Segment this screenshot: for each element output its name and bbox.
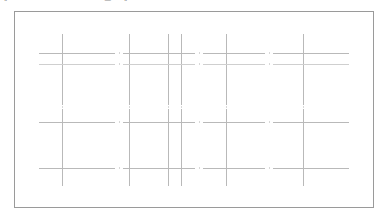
- toolbar-fragment-5[interactable]: ‖: [124, 0, 127, 4]
- horizontal-rule: [123, 53, 195, 54]
- horizontal-rule: [39, 122, 115, 123]
- toolbar-fragment-2[interactable]: ⋯: [62, 0, 70, 4]
- tick-mark: [199, 167, 200, 169]
- toolbar-fragment-3[interactable]: ∙: [84, 0, 86, 4]
- horizontal-rule: [203, 64, 265, 65]
- tick-mark: [62, 106, 63, 108]
- horizontal-rule: [273, 53, 349, 54]
- toolbar-fragment-0[interactable]: ‖: [4, 0, 7, 4]
- vertical-rule: [181, 109, 182, 186]
- tick-mark: [129, 106, 130, 108]
- horizontal-rule: [39, 168, 115, 169]
- horizontal-rule: [39, 64, 115, 65]
- vertical-rule: [226, 109, 227, 186]
- line-drawing-canvas[interactable]: [14, 11, 374, 208]
- vertical-rule: [62, 109, 63, 186]
- tick-mark: [269, 167, 270, 169]
- horizontal-rule: [39, 53, 115, 54]
- tick-mark: [119, 167, 120, 169]
- toolbar-fragment-1[interactable]: ══: [28, 0, 39, 4]
- vertical-rule: [129, 109, 130, 186]
- horizontal-rule: [273, 64, 349, 65]
- tick-mark: [226, 106, 227, 108]
- tick-mark: [199, 52, 200, 54]
- vertical-rule: [129, 34, 130, 105]
- horizontal-rule: [123, 64, 195, 65]
- tick-mark: [119, 121, 120, 123]
- tick-mark: [119, 52, 120, 54]
- tick-mark: [269, 121, 270, 123]
- vertical-rule: [226, 34, 227, 105]
- toolbar-strip: ‖══⋯∙▭‖: [0, 0, 385, 7]
- tick-mark: [303, 106, 304, 108]
- vertical-rule: [168, 34, 169, 105]
- tick-mark: [168, 106, 169, 108]
- tick-mark: [269, 52, 270, 54]
- vertical-rule: [303, 109, 304, 186]
- vertical-rule: [168, 109, 169, 186]
- vertical-rule: [181, 34, 182, 105]
- toolbar-fragment-4[interactable]: ▭: [104, 0, 112, 4]
- horizontal-rule: [203, 53, 265, 54]
- horizontal-rule: [123, 168, 195, 169]
- vertical-rule: [303, 34, 304, 105]
- horizontal-rule: [203, 168, 265, 169]
- tick-mark: [199, 63, 200, 65]
- horizontal-rule: [273, 122, 349, 123]
- tick-mark: [119, 63, 120, 65]
- horizontal-rule: [123, 122, 195, 123]
- horizontal-rule: [203, 122, 265, 123]
- tick-mark: [199, 121, 200, 123]
- tick-mark: [269, 63, 270, 65]
- tick-mark: [181, 106, 182, 108]
- horizontal-rule: [273, 168, 349, 169]
- vertical-rule: [62, 34, 63, 105]
